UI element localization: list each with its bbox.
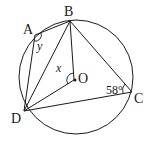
chords	[24, 21, 132, 111]
circle-geometry-diagram: A B C D O x y 58°	[0, 0, 151, 145]
radius-OB	[70, 21, 74, 80]
label-B: B	[64, 4, 73, 19]
angle-label-y: y	[36, 39, 43, 53]
label-D: D	[11, 111, 21, 126]
circumcircle	[19, 20, 133, 134]
label-C: C	[134, 91, 143, 106]
angle-label-58: 58°	[106, 83, 123, 97]
angle-label-x: x	[55, 61, 62, 75]
chord-AB	[35, 21, 70, 35]
angle-arc-C	[123, 84, 125, 93]
label-A: A	[23, 22, 34, 37]
center-point-O	[74, 79, 77, 82]
label-O: O	[78, 71, 88, 86]
